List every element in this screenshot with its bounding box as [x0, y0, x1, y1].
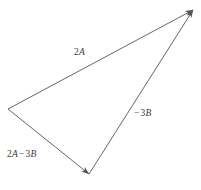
vector-diagram-figure: 2A −3B 2A−3B: [0, 0, 201, 190]
vector-label-neg-3b-operator: −: [133, 108, 141, 118]
vector-arrow-2a-minus-3b: [8, 109, 89, 174]
vector-label-sum-operator: −: [18, 149, 26, 159]
vector-arrow-neg-3b: [89, 10, 193, 174]
vector-label-neg-3b-variable: B: [146, 108, 152, 118]
vector-label-sum-variable-2: B: [30, 149, 36, 159]
vector-triangle-svg: [0, 0, 201, 190]
vector-label-2a: 2A: [74, 48, 85, 58]
vector-label-2a-minus-3b: 2A−3B: [7, 150, 37, 160]
vector-label-2a-variable: A: [79, 47, 85, 57]
vector-arrow-2a: [8, 10, 193, 109]
vector-label-neg-3b: −3B: [133, 109, 152, 119]
